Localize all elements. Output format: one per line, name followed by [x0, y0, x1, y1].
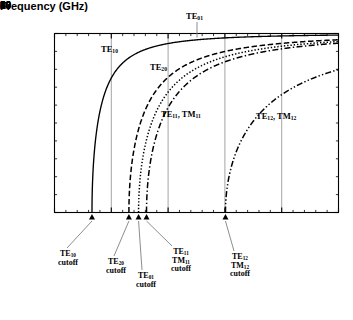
data-curves: [92, 35, 339, 212]
cutoff-label-te01: TE01cutoff: [128, 272, 164, 289]
plot-frame: [55, 34, 339, 213]
x-axis-title: Frequency (GHz): [0, 0, 88, 12]
curve-te01: [139, 42, 339, 213]
axis-ticks: [55, 34, 339, 213]
curve-te10: [92, 35, 339, 212]
curve-label-te01: TE01: [186, 12, 203, 22]
cutoff-label-te10: TE10cutoff: [50, 250, 86, 267]
curve-label-te11-tm11: TE11, TM11: [161, 110, 201, 120]
curve-label-te20: TE20: [150, 63, 167, 73]
curve-label-te12-tm12: TE12, TM12: [256, 112, 296, 122]
gridlines: [111, 34, 281, 213]
cutoff-label-te12-tm12: TE12TM12cutoff: [222, 253, 258, 278]
curve-label-te10: TE10: [101, 45, 118, 55]
chart-figure: 0 10 20 30 40 50 1 0 Frequency (GHz) β/k…: [0, 0, 353, 320]
annotation-leaders: [67, 22, 234, 270]
cutoff-label-te11-tm11: TE11TM11cutoff: [163, 248, 199, 273]
curve-te11_tm11: [147, 43, 339, 212]
